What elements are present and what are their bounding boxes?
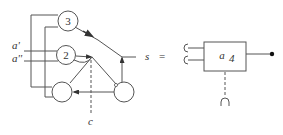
input-wires [24,51,58,61]
block-label: a [219,49,225,61]
feedback-wires [31,15,58,97]
input-a-prime-label: a' [12,39,21,51]
node-2-label: 2 [63,49,69,61]
node-bottom-left [52,82,72,102]
input-cup-icon [184,56,188,64]
edges [70,27,136,113]
equation-operator: = [159,50,165,62]
control-label-c: c [88,115,93,127]
node-2: 2 [57,46,76,65]
block-a4: a 4 [184,42,274,106]
input-cup-icon [184,44,188,52]
output-dot-icon [270,52,274,56]
equation-lhs: s [145,50,149,62]
block-label-sub: 4 [229,52,235,64]
diagram-canvas: 3 2 a' a'' c s = a 4 [0,0,283,135]
node-bottom-right [114,82,134,102]
control-cup-icon [221,98,229,106]
input-a-double-prime-label: a'' [12,52,23,64]
node-3: 3 [58,11,78,31]
node-3-label: 3 [65,15,71,27]
